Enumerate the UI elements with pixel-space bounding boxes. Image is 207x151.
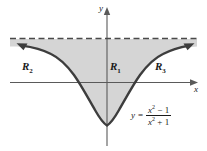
equation-numerator: x2 − 1 [146,104,171,115]
graph-canvas [0,0,207,151]
region-2-subscript: 2 [29,67,33,75]
region-2-label: R2 [22,61,33,75]
y-axis-label: y [99,4,103,13]
equation-lhs: y [131,111,135,120]
numerator-operator: − [157,105,162,115]
region-3-label: R3 [155,61,166,75]
denominator-constant: 1 [165,117,170,127]
y-axis-arrowhead [104,7,110,15]
equation-denominator: x2 + 1 [146,116,171,127]
region-1-subscript: 1 [117,67,121,75]
x-axis-label: x [194,85,198,94]
equation-relation: = [137,111,144,120]
numerator-exponent: 2 [152,104,155,110]
figure-container: y x R2 R1 R3 y = x2 − 1 x2 + 1 [0,0,207,151]
equation-annotation: y = x2 − 1 x2 + 1 [131,104,171,128]
numerator-constant: 1 [165,105,170,115]
denominator-operator: + [157,117,162,127]
region-1-label: R1 [110,61,121,75]
denominator-exponent: 2 [152,116,155,122]
region-3-subscript: 3 [162,67,166,75]
equation-fraction: x2 − 1 x2 + 1 [146,104,171,128]
